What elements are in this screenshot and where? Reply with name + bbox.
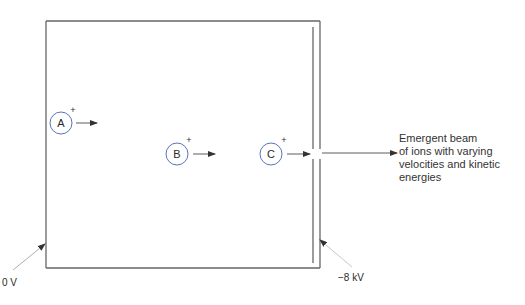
zero-volt-pointer-arrow [13, 244, 45, 270]
caption-line-1: Emergent beam [399, 132, 525, 145]
ion-c-label: C [267, 148, 275, 160]
ion-a-label: A [57, 117, 65, 129]
ion-a-charge: + [70, 105, 75, 115]
caption-line-2: of ions with varying [399, 145, 525, 158]
ion-c: C + [260, 135, 310, 165]
ion-b: B + [166, 135, 215, 165]
ion-c-charge: + [281, 135, 286, 145]
ion-b-charge: + [186, 135, 191, 145]
ion-a: A + [50, 105, 97, 134]
zero-volt-label: 0 V [2, 277, 17, 288]
caption-line-3: velocities and kinetic [399, 158, 525, 171]
negative-voltage-label: −8 kV [338, 272, 364, 283]
ion-b-label: B [173, 148, 180, 160]
negative-voltage-pointer-arrow [320, 240, 352, 267]
emergent-beam-caption: Emergent beam of ions with varying veloc… [399, 132, 525, 184]
caption-line-4: energies [399, 171, 525, 184]
